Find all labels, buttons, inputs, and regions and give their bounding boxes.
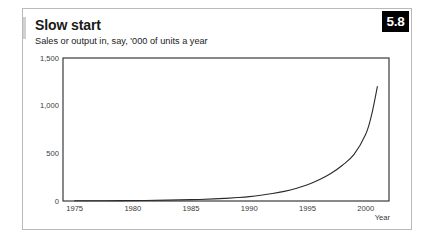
x-axis-tick-label: 1975 bbox=[66, 204, 83, 213]
x-axis-label: Year bbox=[375, 213, 391, 222]
data-series-line bbox=[75, 87, 378, 201]
plot-area: 05001,0001,500 197519801985199019952000 … bbox=[23, 9, 413, 231]
x-axis-tick-label: 2000 bbox=[357, 204, 374, 213]
y-axis-tick-label: 500 bbox=[46, 149, 59, 158]
y-axis-tick-label: 1,000 bbox=[40, 101, 59, 110]
x-axis-tick-label: 1980 bbox=[124, 204, 141, 213]
x-axis-tick-label: 1990 bbox=[241, 204, 258, 213]
y-axis-tick-label: 1,500 bbox=[40, 54, 59, 63]
figure-card: 5.8 Slow start Sales or output in, say, … bbox=[22, 8, 412, 230]
y-axis-tick-labels: 05001,0001,500 bbox=[40, 54, 59, 206]
x-axis-tick-label: 1985 bbox=[183, 204, 200, 213]
x-axis-tick-labels: 197519801985199019952000 bbox=[66, 204, 374, 213]
y-axis-tick-label: 0 bbox=[55, 197, 59, 206]
line-chart-svg: 05001,0001,500 197519801985199019952000 … bbox=[23, 9, 413, 231]
x-axis-tick-label: 1995 bbox=[299, 204, 316, 213]
plot-frame bbox=[63, 58, 389, 201]
